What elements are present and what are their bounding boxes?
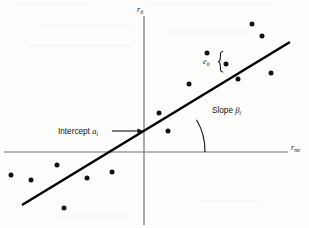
scatter-point xyxy=(55,163,60,168)
scatter-point xyxy=(224,62,229,67)
scatter-point xyxy=(166,129,171,134)
slope-label: Slope βi xyxy=(212,105,242,116)
y-axis-label-subscript: it xyxy=(140,9,144,15)
scatter-point xyxy=(9,173,14,178)
scatter-point xyxy=(110,170,115,175)
scatter-point xyxy=(269,71,274,76)
x-axis-label-subscript: mt xyxy=(294,147,300,153)
intercept-label-text: Intercept xyxy=(58,127,92,136)
scatter-point xyxy=(205,51,210,56)
scatter-point xyxy=(85,176,90,181)
intercept-label: Intercept ai xyxy=(58,126,98,137)
scatter-point xyxy=(29,178,34,183)
scatter-point xyxy=(236,77,241,82)
residual-symbol-subscript: it xyxy=(207,61,210,67)
scatter-point xyxy=(157,111,162,116)
scatter-point xyxy=(250,22,255,27)
scatter-point xyxy=(62,206,67,211)
slope-label-text: Slope xyxy=(212,106,235,115)
scatter-point xyxy=(260,34,265,39)
characteristic-line-figure: rit rmt Intercept ai Slope βi eit xyxy=(0,0,309,228)
scatter-point xyxy=(187,82,192,87)
